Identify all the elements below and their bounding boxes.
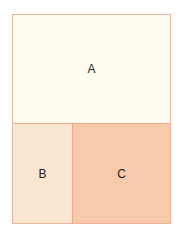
region-a-label: A — [87, 62, 95, 76]
region-a: A — [13, 15, 170, 124]
region-c-label: C — [117, 167, 126, 181]
region-b: B — [13, 124, 73, 223]
region-c: C — [73, 124, 170, 223]
region-b-label: B — [38, 167, 46, 181]
partition-diagram: A B C — [12, 14, 171, 224]
